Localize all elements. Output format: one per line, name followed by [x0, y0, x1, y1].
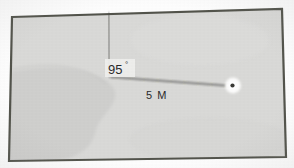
angle-label-value: 95 — [108, 62, 122, 77]
paper-tone-blotch — [130, 118, 290, 162]
degree-symbol-icon: ° — [125, 60, 128, 69]
distance-label: 5 M — [146, 89, 167, 101]
map-diagram-canvas: 95 ° 5 M — [0, 0, 294, 168]
paper-tone-blotch — [130, 14, 270, 66]
station-center-dot — [230, 83, 234, 87]
